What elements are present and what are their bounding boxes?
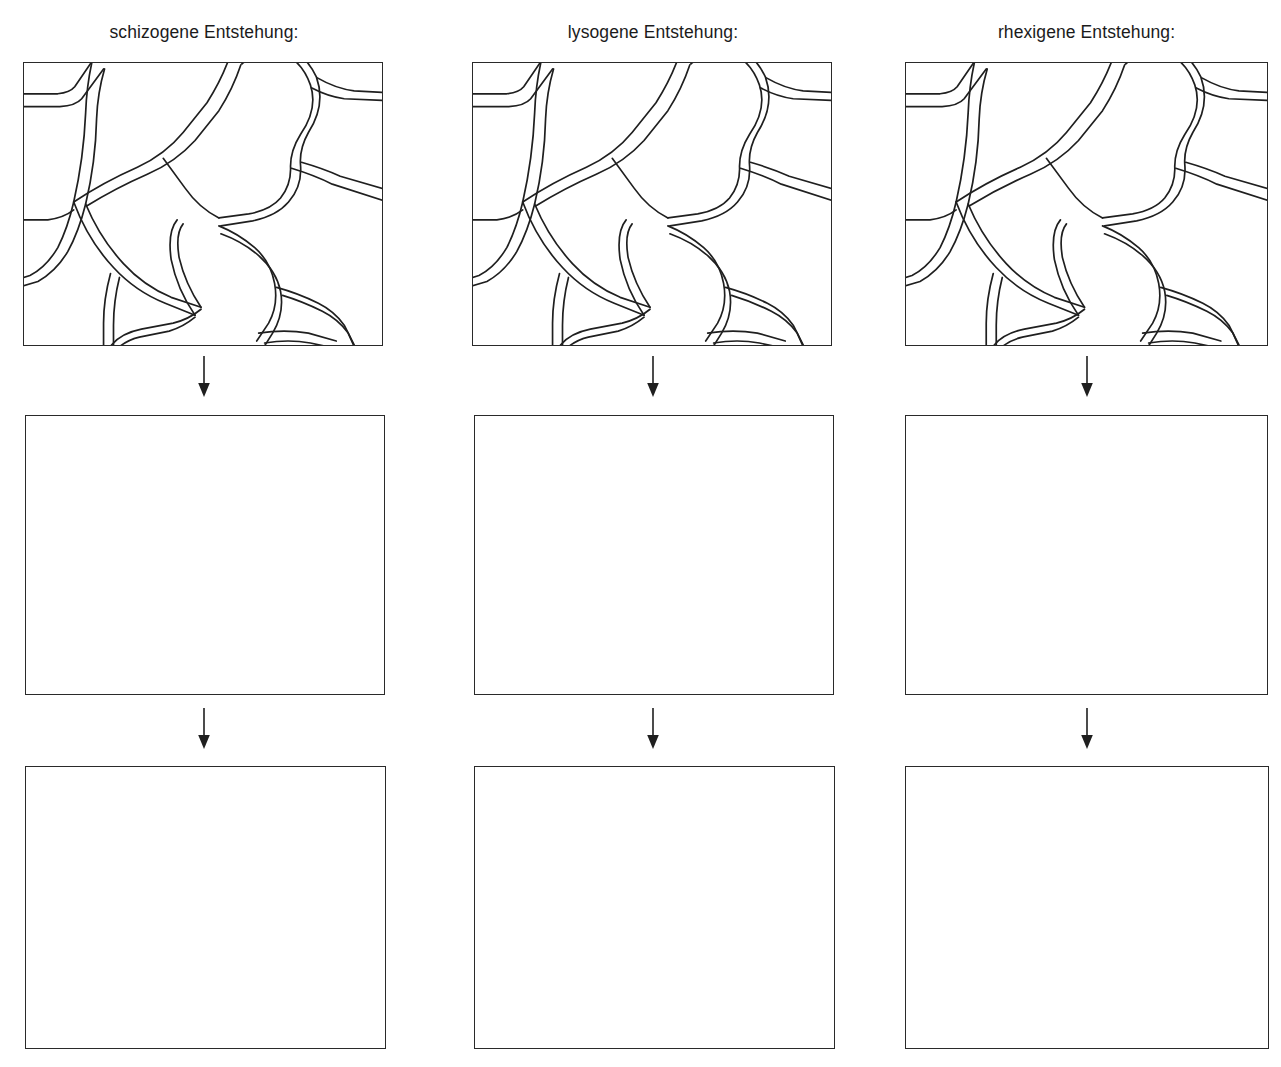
down-arrow-icon <box>1076 356 1098 398</box>
column-title-lysogen: lysogene Entstehung: <box>472 22 834 43</box>
answer-panel-2-schizogen[interactable] <box>25 766 386 1049</box>
down-arrow-icon <box>1076 708 1098 750</box>
column-lysogen: lysogene Entstehung: <box>472 0 834 1067</box>
cell-tissue-panel-rhexigen <box>905 62 1268 346</box>
column-schizogen: schizogene Entstehung: <box>23 0 385 1067</box>
arrow-down-2-lysogen <box>642 708 664 750</box>
column-rhexigen: rhexigene Entstehung: <box>905 0 1268 1067</box>
answer-panel-2-rhexigen[interactable] <box>905 766 1269 1049</box>
answer-panel-1-rhexigen[interactable] <box>905 415 1268 695</box>
answer-panel-2-lysogen[interactable] <box>474 766 835 1049</box>
arrow-down-1-rhexigen <box>1076 356 1098 398</box>
worksheet-page: schizogene Entstehung: <box>0 0 1281 1067</box>
cell-tissue-panel-schizogen <box>23 62 383 346</box>
plant-tissue-cells-diagram <box>473 63 831 345</box>
down-arrow-icon <box>642 356 664 398</box>
plant-tissue-cells-diagram <box>906 63 1267 345</box>
down-arrow-icon <box>642 708 664 750</box>
arrow-down-2-rhexigen <box>1076 708 1098 750</box>
cell-tissue-panel-lysogen <box>472 62 832 346</box>
answer-panel-1-schizogen[interactable] <box>25 415 385 695</box>
column-title-schizogen: schizogene Entstehung: <box>23 22 385 43</box>
answer-panel-1-lysogen[interactable] <box>474 415 834 695</box>
arrow-down-1-lysogen <box>642 356 664 398</box>
down-arrow-icon <box>193 708 215 750</box>
plant-tissue-cells-diagram <box>24 63 382 345</box>
arrow-down-1-schizogen <box>193 356 215 398</box>
down-arrow-icon <box>193 356 215 398</box>
arrow-down-2-schizogen <box>193 708 215 750</box>
column-title-rhexigen: rhexigene Entstehung: <box>905 22 1268 43</box>
